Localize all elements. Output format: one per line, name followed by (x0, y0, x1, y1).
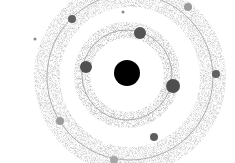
orbiting-body-outer (212, 70, 220, 78)
particle (122, 11, 125, 14)
nucleus-layer (97, 45, 157, 105)
orbiting-body-outer (68, 15, 76, 23)
nucleus (114, 60, 140, 86)
orbiting-body-outer (184, 3, 192, 11)
orbiting-body-inner (80, 61, 92, 73)
orbiting-body-inner (134, 27, 146, 39)
orbiting-body-outer (150, 133, 158, 141)
particle (34, 38, 37, 41)
orbital-diagram (0, 0, 235, 163)
orbiting-body-inner (166, 79, 180, 93)
orbiting-body-outer (56, 117, 64, 125)
orbital-diagram-canvas (0, 0, 235, 163)
